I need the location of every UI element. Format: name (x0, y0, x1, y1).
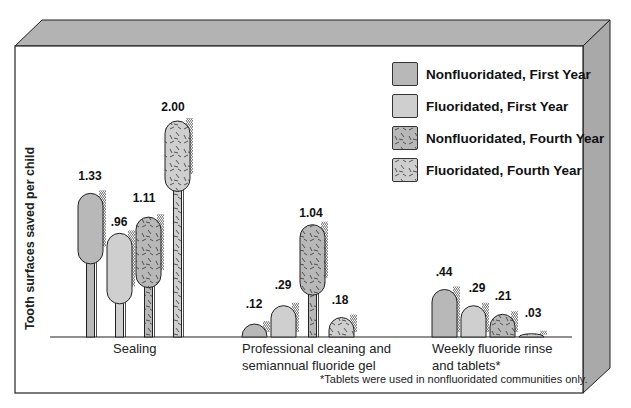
footnote: *Tablets were used in nonfluoridated com… (320, 373, 588, 385)
value-label-professional-f1: .29 (263, 278, 303, 292)
legend-item-fluoridated-fourth-year: Fluoridated, Fourth Year (392, 154, 604, 186)
y-axis-label: Tooth surfaces saved per child (23, 147, 37, 330)
value-label-professional-f4: .18 (320, 293, 360, 307)
legend-swatch-pattern-dark (392, 126, 418, 150)
value-label-sealing-nf1: 1.33 (70, 169, 110, 183)
legend-label: Nonfluoridated, First Year (426, 67, 591, 82)
value-label-weekly-nf4: .21 (483, 289, 523, 303)
legend-swatch-solid-light (392, 94, 418, 118)
legend-swatch-pattern-light (392, 158, 418, 182)
value-label-sealing-f1: .96 (99, 215, 139, 229)
category-label-sealing: Sealing (113, 340, 156, 357)
legend-label: Nonfluoridated, Fourth Year (426, 131, 604, 146)
category-line: Professional cleaning and (242, 340, 391, 357)
value-label-professional-nf4: 1.04 (291, 206, 331, 220)
value-label-professional-nf1: .12 (234, 297, 274, 311)
value-label-sealing-nf4: 1.11 (124, 191, 164, 205)
legend-label: Fluoridated, First Year (426, 99, 568, 114)
toothbrush-bar (432, 286, 460, 337)
value-label-weekly-f4: .03 (513, 306, 553, 320)
value-label-weekly-nf1: .44 (424, 265, 464, 279)
legend-item-nonfluoridated-first-year: Nonfluoridated, First Year (392, 58, 604, 90)
category-label-professional: Professional cleaning and semiannual flu… (242, 340, 391, 374)
category-line: Weekly fluoride rinse (432, 340, 552, 357)
category-line: Sealing (113, 340, 156, 357)
legend-swatch-solid-dark (392, 62, 418, 86)
category-line: semiannual fluoride gel (242, 357, 391, 374)
category-line: and tablets* (432, 357, 552, 374)
legend-item-fluoridated-first-year: Fluoridated, First Year (392, 90, 604, 122)
legend-label: Fluoridated, Fourth Year (426, 163, 582, 178)
category-label-weekly: Weekly fluoride rinse and tablets* (432, 340, 552, 374)
frame-top-face (15, 20, 610, 46)
legend-item-nonfluoridated-fourth-year: Nonfluoridated, Fourth Year (392, 122, 604, 154)
legend: Nonfluoridated, First Year Fluoridated, … (392, 58, 604, 186)
value-label-sealing-f4: 2.00 (153, 100, 193, 114)
